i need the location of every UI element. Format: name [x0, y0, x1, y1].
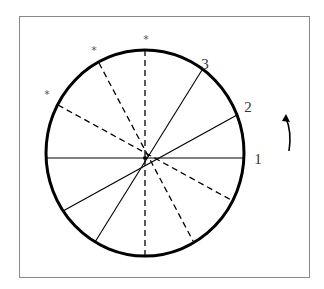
spoke-label-3: 3	[201, 56, 209, 72]
spoke-label-2: 2	[244, 99, 252, 115]
star-marker-3: *	[44, 88, 50, 101]
star-marker-2: *	[91, 44, 97, 57]
rotating-disc-diagram: 123 ***	[0, 0, 324, 289]
center-hub	[143, 156, 147, 160]
diagram-frame	[20, 17, 310, 278]
star-marker-1: *	[143, 33, 149, 46]
spoke-label-1: 1	[254, 151, 262, 167]
